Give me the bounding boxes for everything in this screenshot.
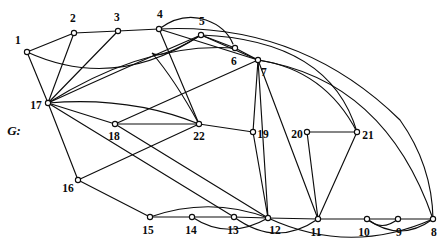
graph-vertex-16[interactable] bbox=[75, 177, 80, 182]
graph-edge-15-12 bbox=[150, 207, 268, 218]
graph-vertex-7[interactable] bbox=[255, 57, 260, 62]
graph-edge-17-18 bbox=[48, 103, 115, 124]
graph-edge-17-16 bbox=[48, 103, 78, 180]
graph-name-label: G: bbox=[7, 123, 21, 139]
graph-vertex-3[interactable] bbox=[115, 28, 120, 33]
graph-vertex-4[interactable] bbox=[156, 26, 161, 31]
graph-edge-3-17 bbox=[48, 31, 118, 103]
vertex-layer bbox=[24, 26, 435, 221]
vertex-label-20: 20 bbox=[291, 129, 303, 141]
vertex-label-12: 12 bbox=[269, 225, 281, 237]
graph-edge-21-11 bbox=[318, 132, 357, 219]
graph-edge-22-19 bbox=[199, 124, 253, 132]
graph-vertex-12[interactable] bbox=[265, 215, 270, 220]
graph-vertex-6[interactable] bbox=[232, 45, 237, 50]
graph-vertex-15[interactable] bbox=[147, 214, 152, 219]
vertex-label-15: 15 bbox=[142, 225, 154, 237]
graph-edge-16-15 bbox=[78, 180, 150, 217]
graph-vertex-13[interactable] bbox=[231, 214, 236, 219]
vertex-label-7: 7 bbox=[261, 67, 267, 79]
graph-edge-6-17 bbox=[48, 47, 235, 103]
graph-vertex-19[interactable] bbox=[250, 129, 255, 134]
graph-edge-12-11 bbox=[268, 218, 318, 219]
graph-vertex-2[interactable] bbox=[71, 30, 76, 35]
graph-canvas bbox=[0, 0, 445, 250]
graph-vertex-8[interactable] bbox=[430, 216, 435, 221]
vertex-label-18: 18 bbox=[108, 131, 120, 143]
graph-vertex-9[interactable] bbox=[395, 216, 400, 221]
graph-edge-18-12 bbox=[115, 124, 268, 218]
graph-edge-2-3 bbox=[74, 31, 118, 33]
graph-edge-17-13 bbox=[48, 103, 234, 217]
vertex-label-17: 17 bbox=[30, 100, 42, 112]
graph-vertex-20[interactable] bbox=[304, 129, 309, 134]
vertex-label-5: 5 bbox=[199, 16, 205, 28]
vertex-label-13: 13 bbox=[227, 225, 239, 237]
graph-edge-9-10 bbox=[367, 219, 398, 226]
vertex-label-8: 8 bbox=[431, 227, 437, 239]
graph-edge-12-8 bbox=[268, 218, 433, 237]
vertex-label-16: 16 bbox=[62, 183, 74, 195]
vertex-label-9: 9 bbox=[396, 227, 402, 239]
graph-vertex-1[interactable] bbox=[24, 49, 29, 54]
vertex-label-19: 19 bbox=[257, 129, 269, 141]
vertex-label-1: 1 bbox=[15, 35, 21, 47]
graph-vertex-17[interactable] bbox=[45, 100, 50, 105]
graph-edge-4-7 bbox=[159, 29, 258, 60]
vertex-label-4: 4 bbox=[157, 9, 163, 21]
graph-vertex-5[interactable] bbox=[198, 32, 203, 37]
graph-edge-18-7 bbox=[115, 60, 258, 124]
vertex-label-3: 3 bbox=[114, 12, 120, 24]
graph-figure: 12345678910111213141516171819202122 G: bbox=[0, 0, 445, 250]
graph-edge-4-22 bbox=[159, 29, 199, 124]
graph-vertex-10[interactable] bbox=[364, 216, 369, 221]
vertex-label-11: 11 bbox=[310, 227, 321, 239]
vertex-label-2: 2 bbox=[70, 13, 76, 25]
graph-edge-13-12 bbox=[234, 217, 268, 218]
graph-edge-7-19 bbox=[253, 60, 258, 132]
graph-vertex-21[interactable] bbox=[354, 129, 359, 134]
edge-layer bbox=[27, 17, 433, 237]
vertex-label-6: 6 bbox=[231, 56, 237, 68]
graph-vertex-14[interactable] bbox=[189, 214, 194, 219]
graph-edge-7-8 bbox=[258, 60, 433, 219]
vertex-label-10: 10 bbox=[358, 227, 370, 239]
vertex-label-21: 21 bbox=[362, 130, 374, 142]
graph-edge-5-17 bbox=[48, 35, 201, 103]
vertex-label-22: 22 bbox=[193, 131, 205, 143]
graph-vertex-18[interactable] bbox=[112, 121, 117, 126]
graph-vertex-22[interactable] bbox=[196, 121, 201, 126]
graph-vertex-11[interactable] bbox=[315, 216, 320, 221]
graph-edge-1-2 bbox=[27, 33, 74, 52]
graph-edge-3-4 bbox=[118, 29, 159, 31]
graph-edge-7-21 bbox=[258, 60, 357, 132]
vertex-label-14: 14 bbox=[185, 225, 197, 237]
